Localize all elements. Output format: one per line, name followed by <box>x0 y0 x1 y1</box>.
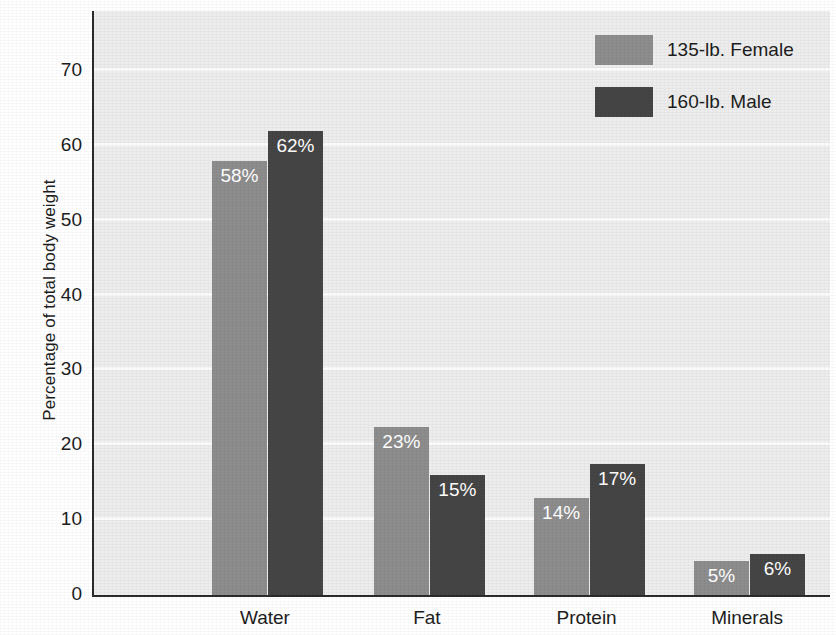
y-tick-20: 20 <box>38 434 82 453</box>
legend-swatch-female <box>595 35 653 65</box>
gridline-30 <box>94 367 830 370</box>
bar-value-label: 17% <box>590 469 645 490</box>
bar-minerals-male: 6% <box>750 554 805 595</box>
x-category-protein: Protein <box>507 607 667 629</box>
y-axis-tick-labels: 010203040506070 <box>30 0 82 635</box>
bar-minerals-female: 5% <box>694 561 749 595</box>
bar-fat-female: 23% <box>374 427 429 595</box>
gridline-20 <box>94 442 830 445</box>
bar-value-label: 5% <box>694 566 749 587</box>
legend-item-male: 160-lb. Male <box>595 87 835 117</box>
bar-protein-female: 14% <box>534 498 589 595</box>
bar-value-label: 62% <box>268 136 323 157</box>
bar-water-female: 58% <box>212 161 267 595</box>
legend: 135-lb. Female160-lb. Male <box>595 35 835 139</box>
legend-label: 135-lb. Female <box>667 39 794 61</box>
x-category-fat: Fat <box>347 607 507 629</box>
bar-water-male: 62% <box>268 131 323 595</box>
x-category-water: Water <box>185 607 345 629</box>
legend-swatch-male <box>595 87 653 117</box>
bar-fat-male: 15% <box>430 475 485 595</box>
x-category-minerals: Minerals <box>667 607 827 629</box>
bar-value-label: 23% <box>374 432 429 453</box>
y-tick-50: 50 <box>38 210 82 229</box>
y-tick-0: 0 <box>38 584 82 603</box>
y-tick-60: 60 <box>38 135 82 154</box>
gridline-40 <box>94 293 830 296</box>
y-tick-40: 40 <box>38 285 82 304</box>
bar-value-label: 6% <box>750 559 805 580</box>
gridline-60 <box>94 143 830 146</box>
bar-value-label: 15% <box>430 480 485 501</box>
bar-protein-male: 17% <box>590 464 645 595</box>
bar-value-label: 58% <box>212 166 267 187</box>
gridline-50 <box>94 218 830 221</box>
legend-label: 160-lb. Male <box>667 91 772 113</box>
y-tick-10: 10 <box>38 509 82 528</box>
y-tick-70: 70 <box>38 60 82 79</box>
y-tick-30: 30 <box>38 359 82 378</box>
legend-item-female: 135-lb. Female <box>595 35 835 65</box>
bar-chart: Percentage of total body weight 01020304… <box>0 0 836 635</box>
bar-value-label: 14% <box>534 503 589 524</box>
